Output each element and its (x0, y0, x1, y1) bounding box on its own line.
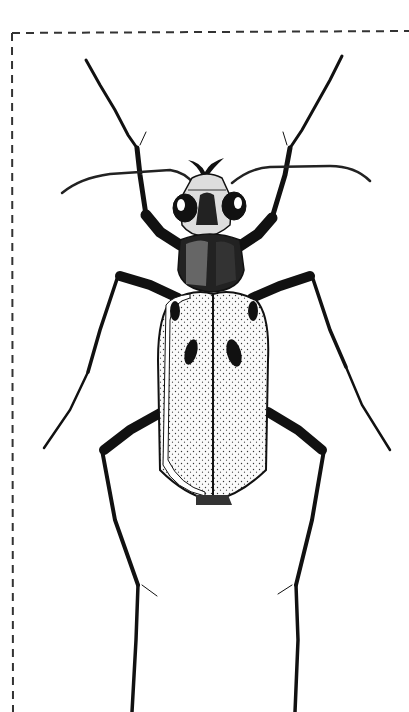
pronotum (178, 234, 244, 292)
illustration-frame (0, 0, 409, 712)
elytra (158, 292, 268, 505)
